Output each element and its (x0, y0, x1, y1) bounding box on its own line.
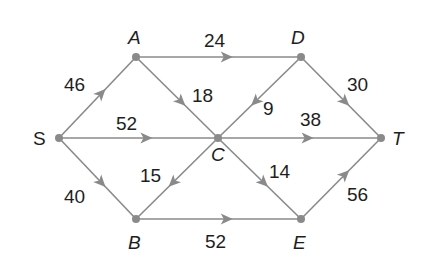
node-label-S: S (33, 128, 46, 149)
node-S-dot (55, 134, 63, 142)
edge-B-E (136, 214, 301, 225)
edge-weight-label: 30 (347, 74, 368, 95)
edge-line (301, 138, 381, 219)
edge-weight-label: 24 (204, 30, 226, 51)
node-E-dot (297, 215, 305, 223)
node-B-dot (132, 215, 140, 223)
edge-weight-label: 9 (263, 98, 274, 119)
edge-weight-label: 46 (64, 74, 85, 95)
edge-A-D (136, 52, 301, 63)
edge-E-T (301, 138, 381, 219)
edge-weight-label: 56 (347, 184, 368, 205)
node-C-dot (214, 134, 222, 142)
node-label-A: A (127, 27, 141, 48)
node-label-C: C (211, 144, 225, 165)
node-label-T: T (392, 128, 405, 149)
node-D-dot (297, 53, 305, 61)
node-A-dot (132, 53, 140, 61)
edge-weight-label: 52 (205, 231, 226, 252)
edge-D-C (218, 57, 301, 138)
edge-C-T (218, 133, 381, 144)
edge-weight-label: 18 (192, 85, 213, 106)
edge-weight-label: 40 (64, 186, 85, 207)
edge-weight-label: 52 (116, 113, 137, 134)
node-label-E: E (293, 232, 306, 253)
network-diagram: 46524024189303815145256SADCTBE (0, 0, 422, 271)
node-T-dot (377, 134, 385, 142)
node-label-D: D (291, 27, 305, 48)
edge-weight-label: 15 (140, 165, 161, 186)
edge-line (218, 57, 301, 138)
edge-S-C (59, 133, 218, 144)
edge-weight-label: 14 (269, 161, 291, 182)
network-diagram-canvas: 46524024189303815145256SADCTBE (0, 0, 422, 271)
node-label-B: B (128, 232, 141, 253)
edge-weight-label: 38 (300, 109, 321, 130)
